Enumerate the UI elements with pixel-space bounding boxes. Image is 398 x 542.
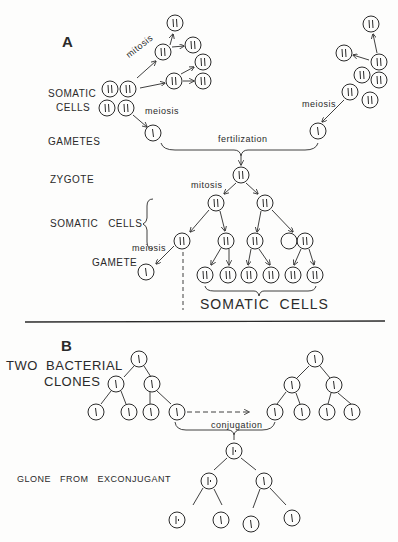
fertilization-label: fertilization bbox=[218, 134, 268, 144]
mitosis-label-zygote: mitosis bbox=[191, 180, 223, 190]
conjugation-label: conjugation bbox=[211, 420, 263, 430]
somatic-cells-mid-label: SOMATIC CELLS bbox=[50, 218, 142, 229]
meiosis-label-left: meiosis bbox=[145, 106, 179, 116]
two-bacterial-clones-label-line2: CLONES bbox=[44, 374, 100, 389]
diagram-canvas: A SOMATIC CELLS GAMETES ZYGOTE SOMATIC C… bbox=[0, 0, 398, 542]
panel-a-label: A bbox=[62, 33, 73, 50]
panel-b-label: B bbox=[61, 337, 72, 354]
two-bacterial-clones-label-line1: TWO BACTERIAL bbox=[6, 358, 123, 373]
somatic-cells-label-line1: SOMATIC bbox=[48, 88, 96, 99]
meiosis-label-bottom: meiosis bbox=[132, 243, 166, 253]
meiosis-label-right: meiosis bbox=[302, 99, 336, 109]
panel-divider bbox=[25, 321, 385, 322]
panel-b-graphics bbox=[88, 351, 360, 532]
gamete-label: GAMETE bbox=[92, 257, 137, 268]
zygote-label: ZYGOTE bbox=[50, 174, 94, 185]
clone-from-exconjugant-label: GLONE FROM EXCONJUGANT bbox=[17, 474, 171, 484]
panel-a-graphics bbox=[99, 15, 387, 310]
gametes-label: GAMETES bbox=[48, 136, 100, 147]
diagram-graphics bbox=[0, 0, 398, 542]
somatic-cells-label-line2: CELLS bbox=[56, 102, 90, 113]
somatic-cells-bottom-label: SOMATIC CELLS bbox=[200, 296, 329, 312]
